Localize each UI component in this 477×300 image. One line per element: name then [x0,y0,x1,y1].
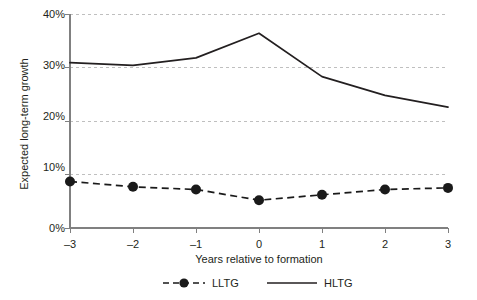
legend-label-hltg: HLTG [324,277,353,289]
chart-figure: 40% 30% 20% 10% 0% –3 –2 –1 0 1 2 3 Year… [0,0,477,300]
x-tick-label-minus3: –3 [64,238,76,250]
y-tick-label-0: 0% [49,222,65,234]
x-tick-label-minus2: –2 [127,238,139,250]
y-tick-label-20: 20% [43,110,65,122]
y-tick-label-40: 40% [43,8,65,20]
y-tick-label-10: 10% [43,161,65,173]
y-axis-title: Expected long-term growth [18,58,30,189]
x-tick-label-0: 0 [256,238,262,250]
x-tick-label-minus1: –1 [190,238,202,250]
x-axis-title: Years relative to formation [195,253,322,265]
legend-marker-lltg [179,278,188,287]
data-point-marker [317,190,327,200]
y-tick-label-30: 30% [43,59,65,71]
data-point-marker [380,184,390,194]
x-tick-label-1: 1 [319,238,325,250]
legend-label-lltg: LLTG [212,277,239,289]
x-tick-label-3: 3 [445,238,451,250]
data-point-marker [254,195,264,205]
x-tick-label-2: 2 [382,238,388,250]
line-chart: 40% 30% 20% 10% 0% –3 –2 –1 0 1 2 3 Year… [0,0,477,300]
data-point-marker [191,184,201,194]
data-point-marker [128,182,138,192]
data-point-marker [65,176,75,186]
data-point-marker [443,183,453,193]
